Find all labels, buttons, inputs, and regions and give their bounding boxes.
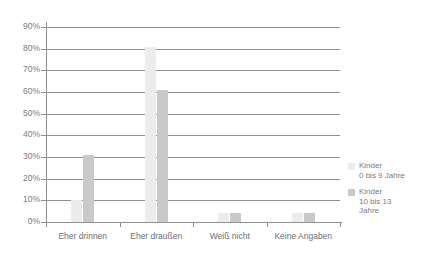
x-axis-line — [46, 222, 342, 223]
bar[interactable] — [157, 90, 168, 222]
legend-entry[interactable]: Kinder 10 bis 13 Jahre — [348, 187, 422, 216]
x-axis-tick-label: Eher drinnen — [46, 231, 120, 241]
bar[interactable] — [71, 200, 82, 222]
y-axis-tick-mark — [41, 92, 46, 93]
legend-label: Kinder 10 bis 13 Jahre — [359, 187, 391, 216]
bar-group — [292, 27, 315, 222]
legend-entry[interactable]: Kinder 0 bis 9 Jahre — [348, 161, 422, 180]
bar[interactable] — [145, 47, 156, 223]
y-axis-tick-label: 10% — [2, 195, 40, 204]
y-axis-tick-label: 70% — [2, 65, 40, 74]
y-axis-tick-mark — [41, 114, 46, 115]
y-axis-tick-mark — [41, 70, 46, 71]
chart-legend: Kinder 0 bis 9 JahreKinder 10 bis 13 Jah… — [348, 161, 422, 223]
y-axis-tick-label: 20% — [2, 174, 40, 183]
y-axis-tick-mark — [41, 135, 46, 136]
y-axis-tick-label: 40% — [2, 130, 40, 139]
y-axis-tick-labels: 90%80%70%60%50%40%30%20%10%0% — [0, 0, 40, 253]
bar-chart: 90%80%70%60%50%40%30%20%10%0% Kinder 0 b… — [0, 0, 424, 253]
x-axis-tick-mark — [120, 222, 121, 227]
bar-group — [145, 27, 168, 222]
y-axis-tick-label: 60% — [2, 87, 40, 96]
x-axis-tick-label: Eher draußen — [120, 231, 194, 241]
y-axis-tick-mark — [41, 157, 46, 158]
plot-area — [46, 27, 340, 222]
y-axis-tick-label: 30% — [2, 152, 40, 161]
legend-label: Kinder 0 bis 9 Jahre — [359, 161, 405, 180]
bar[interactable] — [292, 213, 303, 222]
x-axis-tick-mark — [267, 222, 268, 227]
legend-swatch-icon — [348, 189, 355, 196]
bar-group — [71, 27, 94, 222]
y-axis-tick-label: 50% — [2, 109, 40, 118]
chart-title — [30, 0, 330, 3]
bar-group — [218, 27, 241, 222]
y-axis-tick-mark — [41, 49, 46, 50]
y-axis-tick-label: 80% — [2, 44, 40, 53]
bar[interactable] — [218, 213, 229, 222]
bar[interactable] — [304, 213, 315, 222]
x-axis-tick-mark — [340, 222, 341, 227]
x-axis-tick-label: Keine Angaben — [267, 231, 341, 241]
y-axis-tick-label: 90% — [2, 22, 40, 31]
bar[interactable] — [230, 213, 241, 222]
legend-swatch-icon — [348, 163, 355, 170]
y-axis-tick-mark — [41, 27, 46, 28]
x-axis-tick-label: Weiß nicht — [193, 231, 267, 241]
x-axis-tick-mark — [46, 222, 47, 227]
y-axis-tick-mark — [41, 179, 46, 180]
x-axis-tick-mark — [193, 222, 194, 227]
y-axis-tick-label: 0% — [2, 217, 40, 226]
y-axis-tick-mark — [41, 200, 46, 201]
bar[interactable] — [83, 155, 94, 222]
